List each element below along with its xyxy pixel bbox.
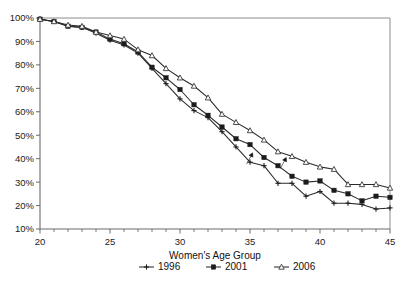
plot-axes [40,18,390,229]
data-point-2001 [346,192,350,196]
legend-marker-2001 [211,265,215,269]
y-axis-tick-label: 70% [15,83,35,94]
legend-label: 1996 [158,261,181,272]
y-axis-tick-label: 10% [15,223,35,234]
data-point-2001 [192,103,196,107]
data-point-2001 [374,194,378,198]
data-point-2001 [150,65,154,69]
data-point-2001 [164,76,168,80]
legend-item-1996[interactable]: 1996 [139,261,181,272]
x-axis-tick-label: 35 [245,236,256,247]
plot-frame [40,18,390,229]
x-axis-title: Women's Age Group [169,250,261,261]
data-point-2001 [248,142,252,146]
data-point-2001 [360,199,364,203]
data-point-2001 [318,179,322,183]
x-axis-tick-label: 30 [175,236,186,247]
y-axis-tick-label: 20% [15,200,35,211]
x-axis-tick-label: 20 [35,236,46,247]
data-point-2006 [191,83,196,88]
data-point-2006 [261,137,266,142]
y-axis-tick-label: 40% [15,153,35,164]
legend-item-2001[interactable]: 2001 [206,261,248,272]
chart-container: 10%20%30%40%50%60%70%80%90%100%202530354… [0,0,410,283]
legend-label: 2006 [293,261,316,272]
y-axis-tick-label: 80% [15,59,35,70]
y-axis-tick-label: 60% [15,106,35,117]
data-point-2001 [206,113,210,117]
x-axis-tick-label: 40 [315,236,326,247]
data-point-2006 [247,128,252,133]
data-point-2001 [276,164,280,168]
annotation-arrow [280,158,286,169]
data-point-2001 [178,87,182,91]
line-chart: 10%20%30%40%50%60%70%80%90%100%202530354… [0,0,410,283]
series-line-2006 [40,19,390,188]
data-point-2006 [177,75,182,80]
data-point-2001 [388,195,392,199]
y-axis-tick-label: 50% [15,130,35,141]
data-point-2001 [234,137,238,141]
data-point-2001 [122,42,126,46]
legend-label: 2001 [225,261,248,272]
x-axis-tick-label: 25 [105,236,116,247]
data-point-2001 [220,125,224,129]
legend-item-2006[interactable]: 2006 [274,261,316,272]
data-point-2006 [233,120,238,125]
x-axis-tick-label: 45 [385,236,396,247]
data-point-2001 [332,188,336,192]
data-point-2001 [262,155,266,159]
y-axis-tick-label: 30% [15,177,35,188]
data-point-2001 [290,174,294,178]
y-axis-tick-label: 90% [15,36,35,47]
series-line-1996 [40,19,390,209]
y-axis-tick-label: 100% [10,12,35,23]
data-point-2001 [304,180,308,184]
